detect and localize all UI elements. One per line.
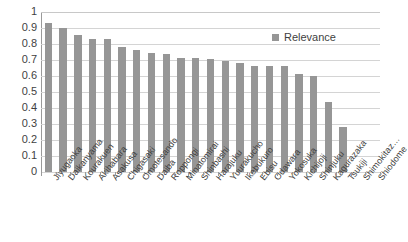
x-tick-mark xyxy=(129,172,130,176)
x-tick-mark xyxy=(292,172,293,176)
y-tick-label: 0.9 xyxy=(3,22,37,33)
x-tick-mark xyxy=(336,172,337,176)
y-tick-label: 0.2 xyxy=(3,134,37,145)
x-tick-mark xyxy=(306,172,307,176)
legend-label: Relevance xyxy=(284,32,336,43)
chart-legend: Relevance xyxy=(268,27,340,47)
y-tick-label: 0.5 xyxy=(3,86,37,97)
y-tick-label: 0.4 xyxy=(3,102,37,113)
y-axis-tick-labels: 10.90.80.70.60.50.40.30.20.10 xyxy=(0,12,37,173)
y-tick-label: 0.1 xyxy=(3,150,37,161)
y-tick-label: 0 xyxy=(3,166,37,177)
x-tick-mark xyxy=(351,172,352,176)
y-tick-label: 0.7 xyxy=(3,54,37,65)
x-tick-mark xyxy=(41,172,42,176)
x-tick-mark xyxy=(233,172,234,176)
x-tick-mark xyxy=(159,172,160,176)
x-tick-mark xyxy=(247,172,248,176)
x-tick-mark xyxy=(365,172,366,176)
x-tick-mark xyxy=(115,172,116,176)
x-tick-mark xyxy=(188,172,189,176)
x-tick-mark xyxy=(262,172,263,176)
x-tick-mark xyxy=(100,172,101,176)
x-tick-mark xyxy=(144,172,145,176)
x-axis-tick-labels: JiyugaokaDaikanyamaKourakuenAkihabaraAsa… xyxy=(41,176,380,242)
x-tick-mark xyxy=(85,172,86,176)
bar xyxy=(59,28,66,172)
x-tick-mark xyxy=(56,172,57,176)
x-tick-mark xyxy=(174,172,175,176)
bar xyxy=(45,23,52,172)
x-tick-mark xyxy=(218,172,219,176)
x-tick-mark xyxy=(203,172,204,176)
y-tick-label: 0.3 xyxy=(3,118,37,129)
bar xyxy=(177,58,184,172)
x-tick-mark xyxy=(70,172,71,176)
y-tick-label: 0.8 xyxy=(3,38,37,49)
legend-color-swatch xyxy=(272,34,279,41)
y-tick-label: 0.6 xyxy=(3,70,37,81)
x-tick-mark xyxy=(277,172,278,176)
x-tick-mark xyxy=(380,172,381,176)
x-tick-mark xyxy=(321,172,322,176)
y-tick-label: 1 xyxy=(3,6,37,17)
